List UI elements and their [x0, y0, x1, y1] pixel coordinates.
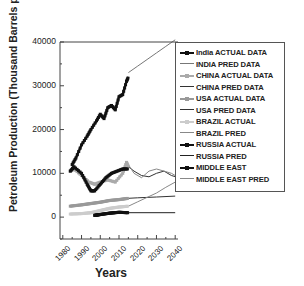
line-marker-swatch-icon — [180, 164, 194, 172]
line-swatch-icon — [180, 175, 194, 183]
legend-item: USA ACTUAL DATA — [180, 93, 265, 104]
series-marker — [126, 164, 129, 167]
legend-item: RUSSIA PRED — [180, 151, 247, 162]
series-line-india-pred-data — [128, 40, 175, 73]
legend-label: USA ACTUAL DATA — [196, 94, 265, 103]
legend-item: USA PRED DATA — [180, 105, 256, 116]
series-marker — [116, 102, 119, 105]
line-swatch-icon — [180, 60, 194, 68]
series-marker — [115, 105, 118, 108]
series-marker — [117, 99, 120, 102]
line-swatch-icon — [180, 106, 194, 114]
legend-label: RUSSIA PRED — [196, 152, 247, 161]
line-swatch-icon — [180, 83, 194, 91]
legend-label: BRAZIL PRED — [196, 129, 246, 138]
series-marker — [74, 157, 77, 160]
line-marker-swatch-icon — [180, 141, 194, 149]
series-marker — [103, 114, 106, 117]
y-tick-label: 40000 — [28, 36, 56, 46]
series-marker — [126, 77, 129, 80]
series-marker — [104, 112, 107, 115]
line-marker-swatch-icon — [180, 95, 194, 103]
x-axis-label: Years — [95, 266, 127, 280]
series-marker — [126, 205, 129, 208]
legend-label: MIDDLE EAST PRED — [196, 175, 269, 184]
legend-item: India ACTUAL DATA — [180, 47, 267, 58]
legend-label: MIDDLE EAST — [196, 163, 246, 172]
y-axis-label: Petroleum Production (Thousand Barrels p… — [7, 62, 19, 212]
legend-item: MIDDLE EAST PRED — [180, 174, 269, 185]
series-marker — [124, 83, 127, 86]
legend-label: INDIA PRED DATA — [196, 60, 260, 69]
line-marker-swatch-icon — [180, 49, 194, 57]
line-marker-swatch-icon — [180, 72, 194, 80]
series-marker — [126, 197, 129, 200]
plot-lines — [69, 40, 179, 217]
series-marker — [123, 86, 126, 89]
chart-legend: India ACTUAL DATAINDIA PRED DATACHINA AC… — [175, 42, 285, 192]
legend-item: CHINA PRED DATA — [180, 82, 264, 93]
line-swatch-icon — [180, 129, 194, 137]
axes — [60, 42, 178, 239]
legend-label: USA PRED DATA — [196, 106, 256, 115]
legend-label: CHINA ACTUAL DATA — [196, 71, 273, 80]
series-line-china-pred-data — [128, 167, 179, 178]
legend-item: INDIA PRED DATA — [180, 59, 260, 70]
series-marker — [121, 93, 124, 96]
series-marker — [126, 167, 129, 170]
series-marker — [105, 109, 108, 112]
legend-item: BRAZIL ACTUAL — [180, 116, 255, 127]
series-marker — [76, 153, 79, 156]
series-marker — [122, 90, 125, 93]
y-tick-label: 0 — [28, 211, 56, 221]
legend-label: CHINA PRED DATA — [196, 83, 264, 92]
legend-label: BRAZIL ACTUAL — [196, 117, 255, 126]
series-marker — [126, 211, 129, 214]
legend-item: MIDDLE EAST — [180, 162, 246, 173]
legend-label: RUSSIA ACTUAL — [196, 140, 256, 149]
series-line-india-actual-data — [72, 77, 128, 165]
line-marker-swatch-icon — [180, 118, 194, 126]
y-tick-label: 30000 — [28, 80, 56, 90]
series-marker — [114, 108, 117, 111]
legend-label: India ACTUAL DATA — [196, 48, 267, 57]
y-tick-label: 20000 — [28, 124, 56, 134]
line-swatch-icon — [180, 152, 194, 160]
series-line-usa-pred-data — [128, 196, 175, 198]
legend-item: CHINA ACTUAL DATA — [180, 70, 273, 81]
legend-item: BRAZIL PRED — [180, 128, 246, 139]
legend-item: RUSSIA ACTUAL — [180, 139, 256, 150]
series-line-brazil-pred — [128, 182, 175, 206]
series-marker — [77, 150, 80, 153]
y-tick-label: 10000 — [28, 167, 56, 177]
series-marker — [79, 147, 82, 150]
series-marker — [103, 117, 106, 120]
